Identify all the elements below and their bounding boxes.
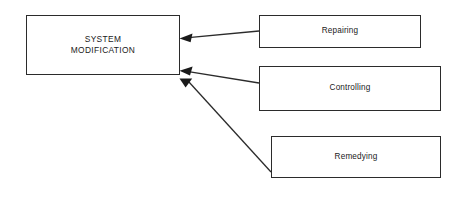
node-repairing-label: Repairing — [322, 26, 358, 37]
node-controlling-label: Controlling — [330, 83, 371, 94]
node-controlling[interactable]: Controlling — [259, 66, 441, 111]
edge-controlling-arrowhead — [180, 67, 193, 76]
node-remedying[interactable]: Remedying — [271, 136, 441, 178]
node-system-modification-label: SYSTEM MODIFICATION — [71, 34, 136, 56]
diagram-canvas: SYSTEM MODIFICATION Repairing Controllin… — [0, 0, 468, 197]
node-repairing[interactable]: Repairing — [259, 15, 421, 48]
node-system-modification[interactable]: SYSTEM MODIFICATION — [26, 15, 180, 75]
edge-repairing-arrowhead — [180, 33, 193, 42]
edge-repairing-line — [189, 31, 260, 38]
edge-controlling-line — [189, 72, 260, 83]
node-remedying-label: Remedying — [335, 152, 378, 163]
